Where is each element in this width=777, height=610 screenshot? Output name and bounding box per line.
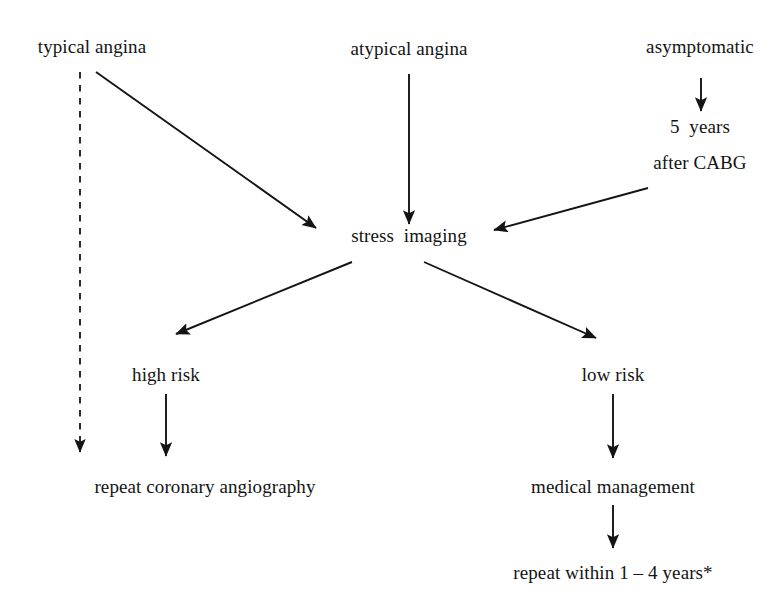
flowchart-edges [0, 0, 777, 610]
node-typical-angina: typical angina [38, 36, 147, 58]
node-high-risk: high risk [132, 364, 200, 386]
stress-imaging-to-low-risk [424, 262, 596, 338]
node-repeat-coronary-angiography: repeat coronary angiography [94, 476, 315, 498]
node-atypical-angina: atypical angina [350, 38, 467, 60]
flowchart-canvas: typical angina atypical angina asymptoma… [0, 0, 777, 610]
node-repeat-within-1-4-years: repeat within 1 – 4 years* [513, 562, 712, 584]
after-cabg-to-stress-imaging [494, 188, 648, 230]
node-asymptomatic: asymptomatic [646, 36, 754, 58]
node-stress-imaging: stress imaging [351, 225, 467, 247]
node-low-risk: low risk [582, 364, 645, 386]
node-medical-management: medical management [531, 476, 695, 498]
node-five-years: 5 years [670, 116, 730, 138]
stress-imaging-to-high-risk [176, 262, 352, 334]
typical-angina-to-stress-imaging [96, 72, 316, 228]
node-after-cabg: after CABG [653, 152, 746, 174]
